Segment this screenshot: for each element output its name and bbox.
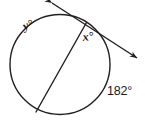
arc-measure-label: 182° bbox=[107, 85, 132, 98]
chord-line bbox=[36, 23, 87, 113]
geometry-figure: y° x° 182° bbox=[0, 0, 145, 124]
tangent-line bbox=[52, 3, 137, 58]
angle-x-label: x° bbox=[82, 30, 94, 43]
